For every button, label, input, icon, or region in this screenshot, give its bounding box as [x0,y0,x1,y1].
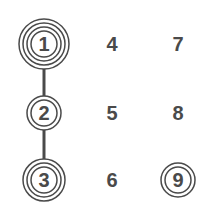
graph-diagram: 123456789 [0,0,209,218]
node-label-8: 8 [172,103,183,123]
node-label-3: 3 [38,170,49,190]
node-label-6: 6 [106,170,117,190]
node-label-1: 1 [38,34,49,54]
node-label-4: 4 [106,34,117,54]
node-label-5: 5 [106,103,117,123]
node-label-9: 9 [172,170,183,190]
node-label-7: 7 [172,34,183,54]
node-label-2: 2 [38,103,49,123]
